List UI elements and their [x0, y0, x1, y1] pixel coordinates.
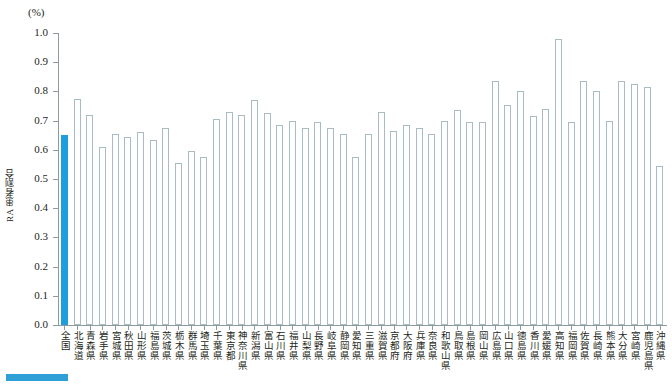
y-axis-tick: 0.6: [0, 150, 58, 151]
bar-column: [593, 33, 600, 325]
x-axis-tick-mark: [406, 326, 407, 330]
x-axis-tick-label: 山形県: [135, 331, 146, 361]
bar: [340, 134, 347, 325]
x-axis-tick-mark: [482, 326, 483, 330]
x-axis-tick-mark: [533, 326, 534, 330]
x-axis-tick-label: 福岡県: [566, 331, 577, 361]
x-axis-tick-label: 秋田県: [122, 331, 133, 361]
bar-column: [631, 33, 638, 325]
bar: [441, 121, 448, 325]
x-axis-tick-label: 三重県: [363, 331, 374, 361]
x-axis-tick-label: 全国: [59, 331, 70, 351]
bar-column: [188, 33, 195, 325]
bar: [593, 91, 600, 325]
x-axis-tick-mark: [166, 326, 167, 330]
y-axis-tick: 0.4: [0, 208, 58, 209]
x-axis-tick-label: 群馬県: [186, 331, 197, 361]
x-axis-tick-label: 千葉県: [211, 331, 222, 361]
x-axis-tick-mark: [660, 326, 661, 330]
x-axis-tick-label: 山梨県: [300, 331, 311, 361]
bar: [162, 128, 169, 325]
y-axis-tick-label: 0.0: [34, 318, 48, 330]
bar: [200, 157, 207, 325]
x-axis-tick-mark: [520, 326, 521, 330]
x-axis-tick-label: 東京都: [224, 331, 235, 361]
y-axis-tick: 0.9: [0, 62, 58, 63]
bar: [555, 39, 562, 325]
x-axis-tick-mark: [267, 326, 268, 330]
bar-column: [251, 33, 258, 325]
bar-column: [61, 33, 68, 325]
bar-column: [137, 33, 144, 325]
y-axis-unit-label: (%): [28, 6, 45, 18]
x-axis-tick-label: 静岡県: [338, 331, 349, 361]
bar-column: [226, 33, 233, 325]
x-axis-tick-mark: [216, 326, 217, 330]
x-axis-tick-mark: [64, 326, 65, 330]
x-axis-tick-label: 岡山県: [477, 331, 488, 361]
x-axis-tick-label: 神奈川県: [236, 331, 247, 371]
chart-container: RA 患者割合 (%) 1.00.90.80.70.60.50.40.30.20…: [0, 0, 672, 385]
bar-column: [352, 33, 359, 325]
x-axis-tick-mark: [330, 326, 331, 330]
bar-column: [86, 33, 93, 325]
x-axis-tick-label: 沖縄県: [654, 331, 665, 361]
y-axis-tick-label: 0.7: [34, 114, 48, 126]
x-axis-tick-mark: [153, 326, 154, 330]
y-axis-tick-label: 0.3: [34, 230, 48, 242]
bar: [656, 166, 663, 325]
x-axis-tick-label: 栃木県: [173, 331, 184, 361]
bar-column: [466, 33, 473, 325]
x-axis-tick-mark: [394, 326, 395, 330]
bar: [264, 113, 271, 325]
x-axis-tick-label: 高知県: [553, 331, 564, 361]
x-axis-tick-label: 広島県: [490, 331, 501, 361]
x-axis-tick-label: 滋賀県: [376, 331, 387, 361]
bar-column: [74, 33, 81, 325]
bar: [580, 81, 587, 325]
bar: [175, 163, 182, 325]
bar: [390, 131, 397, 325]
bar-column: [175, 33, 182, 325]
bar-column: [365, 33, 372, 325]
y-axis-tick: 0.7: [0, 121, 58, 122]
bar: [466, 122, 473, 325]
y-axis-tick-mark: [53, 325, 58, 326]
bar: [327, 128, 334, 325]
x-axis-tick-label: 鳥取県: [452, 331, 463, 361]
bar-column: [656, 33, 663, 325]
bar: [150, 140, 157, 325]
y-axis-tick-label: 0.4: [34, 201, 48, 213]
bar-column: [340, 33, 347, 325]
bar-column: [644, 33, 651, 325]
x-axis-tick-mark: [204, 326, 205, 330]
bar: [99, 147, 106, 325]
bar-column: [618, 33, 625, 325]
x-axis-tick-mark: [444, 326, 445, 330]
bar: [112, 134, 119, 325]
bar: [403, 125, 410, 325]
bar: [61, 135, 68, 325]
bar: [568, 122, 575, 325]
x-axis-tick-mark: [229, 326, 230, 330]
bar-column: [555, 33, 562, 325]
bar: [226, 112, 233, 325]
bar: [238, 115, 245, 325]
bar: [454, 110, 461, 325]
bar: [124, 137, 131, 325]
x-axis-tick-mark: [115, 326, 116, 330]
bar-column: [454, 33, 461, 325]
x-axis-tick-mark: [292, 326, 293, 330]
x-axis-tick-label: 佐賀県: [578, 331, 589, 361]
bar: [276, 125, 283, 325]
bar: [74, 99, 81, 325]
x-axis-tick-label: 長野県: [312, 331, 323, 361]
y-axis-tick-label: 0.2: [34, 260, 48, 272]
bar-column: [416, 33, 423, 325]
y-axis-tick-label: 1.0: [34, 26, 48, 38]
x-axis-tick-label: 福井県: [287, 331, 298, 361]
x-axis-tick-label: 福島県: [148, 331, 159, 361]
bar-column: [200, 33, 207, 325]
bar: [618, 81, 625, 325]
x-axis-tick-mark: [356, 326, 357, 330]
